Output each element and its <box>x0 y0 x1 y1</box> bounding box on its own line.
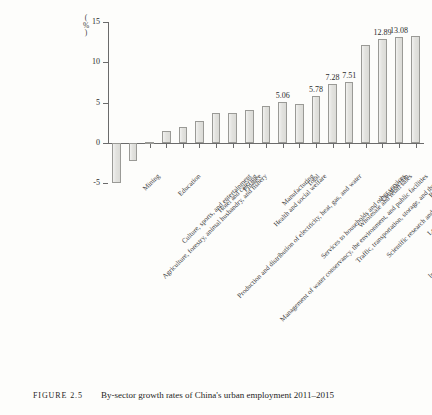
x-axis-tick <box>416 144 417 148</box>
y-axis-tick-label: 10 <box>78 58 100 66</box>
bar-value-label: 13.08 <box>385 27 413 35</box>
bar <box>345 82 354 143</box>
figure-caption: FIGURE 2.5By-sector growth rates of Chin… <box>33 390 419 401</box>
y-axis-tick <box>103 22 108 23</box>
x-axis-tick <box>233 144 234 148</box>
bar <box>361 45 370 143</box>
bar <box>262 106 271 143</box>
bar <box>312 96 321 143</box>
y-axis-tick-label: 0 <box>78 139 100 147</box>
y-axis-tick-label: 5 <box>78 99 100 107</box>
y-axis-tick-label: 15 <box>78 18 100 26</box>
x-axis-tick <box>183 144 184 148</box>
bar <box>179 127 188 143</box>
chart-plot-area: ( % ) 151050-5 5.065.787.287.5112.8913.0… <box>0 0 432 380</box>
bar <box>295 104 304 143</box>
x-axis-category-label: Education <box>178 173 203 198</box>
x-axis-tick <box>166 144 167 148</box>
x-axis-tick <box>399 144 400 148</box>
y-axis-unit-close-paren: ) <box>78 29 94 37</box>
bar <box>378 39 387 143</box>
figure-container: ( % ) 151050-5 5.065.787.287.5112.8913.0… <box>0 0 432 415</box>
y-axis-tick <box>103 62 108 63</box>
bar <box>195 121 204 143</box>
bar <box>129 143 138 161</box>
y-axis-tick <box>103 183 108 184</box>
x-axis-tick <box>216 144 217 148</box>
x-axis-tick <box>382 144 383 148</box>
x-axis-category-label: Mining <box>142 173 162 193</box>
bar-value-label: 5.06 <box>269 92 297 100</box>
y-axis-tick <box>103 103 108 104</box>
bar <box>228 113 237 143</box>
x-axis-tick <box>316 144 317 148</box>
bar <box>411 36 420 143</box>
bar-value-label: 7.51 <box>335 72 363 80</box>
x-axis-tick <box>199 144 200 148</box>
figure-caption-text: By-sector growth rates of China's urban … <box>101 390 334 400</box>
y-axis-line <box>108 22 109 144</box>
y-axis-tick <box>103 143 108 144</box>
x-axis-tick <box>150 144 151 148</box>
bar <box>162 131 171 143</box>
x-axis-tick <box>299 144 300 148</box>
figure-number: FIGURE 2.5 <box>33 391 83 400</box>
bar <box>112 143 121 183</box>
bar <box>395 37 404 143</box>
bar <box>278 102 287 143</box>
bar <box>245 110 254 143</box>
x-axis-tick <box>266 144 267 148</box>
bar <box>212 113 221 143</box>
bar-value-label: 5.78 <box>302 86 330 94</box>
x-axis-tick <box>333 144 334 148</box>
x-axis-tick <box>366 144 367 148</box>
x-axis-tick <box>283 144 284 148</box>
x-axis-tick <box>349 144 350 148</box>
x-axis-tick <box>249 144 250 148</box>
bar <box>145 142 154 144</box>
y-axis-tick-label: -5 <box>78 179 100 187</box>
